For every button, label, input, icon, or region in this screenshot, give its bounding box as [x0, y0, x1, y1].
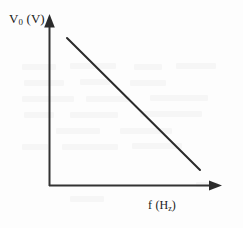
x-axis-label: f (Hz) — [148, 199, 176, 213]
x-axis-label-unit-close: ) — [172, 198, 176, 212]
y-axis-arrowhead — [44, 14, 55, 28]
x-axis-label-unit-open: (H — [156, 198, 169, 212]
y-axis-label-symbol: V — [9, 11, 18, 26]
x-axis-arrowhead — [209, 180, 222, 190]
graph-figure: V0 (V) f (Hz) — [0, 0, 243, 228]
y-axis-label-unit: (V) — [27, 11, 45, 26]
data-line-stopping-potential — [67, 38, 200, 170]
graph-drawing — [0, 0, 243, 228]
y-axis-label: V0 (V) — [9, 12, 45, 27]
